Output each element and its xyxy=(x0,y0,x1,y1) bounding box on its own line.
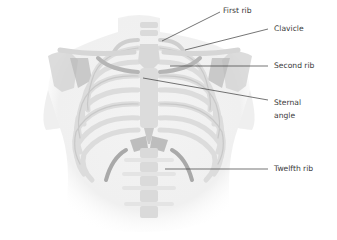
label-sternal-angle-line1: Sternal xyxy=(274,98,301,107)
leader-first-rib xyxy=(162,12,220,41)
leader-clavicle xyxy=(185,29,268,50)
label-second-rib: Second rib xyxy=(274,61,314,70)
label-clavicle: Clavicle xyxy=(274,24,304,33)
thoracic-cage-illustration xyxy=(0,0,337,240)
label-sternal-angle-line2: angle xyxy=(274,111,301,120)
label-twelfth-rib: Twelfth rib xyxy=(274,164,313,173)
label-sternal-angle: Sternal angle xyxy=(274,98,301,120)
label-first-rib: First rib xyxy=(223,6,251,15)
